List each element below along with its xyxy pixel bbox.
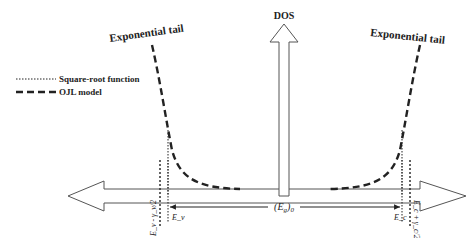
tail-label-left: Exponential tail (109, 22, 185, 44)
legend-label-ojl: OJL model (59, 87, 102, 97)
marker-label-right-outer: E_c + γ_c/2 (412, 199, 421, 238)
legend: Square-root function OJL model (16, 74, 139, 97)
marker-label-left-outer: E_v - γ_v/2 (149, 200, 158, 237)
marker-label-right-inner: E_c (393, 213, 407, 222)
ojl-curve-right (330, 45, 420, 189)
legend-label-square-root: Square-root function (59, 74, 139, 84)
marker-label-left-inner: E_v (171, 213, 185, 222)
tail-label-right: Exponential tail (370, 26, 446, 46)
dos-axis-label: DOS (274, 10, 295, 21)
ojl-curve-left (152, 45, 240, 189)
dos-axis: DOS (270, 10, 298, 196)
dos-diagram: DOS (Eg)0 E_v - γ_v/2 E_v E_c E_c + γ_c/… (0, 0, 474, 238)
